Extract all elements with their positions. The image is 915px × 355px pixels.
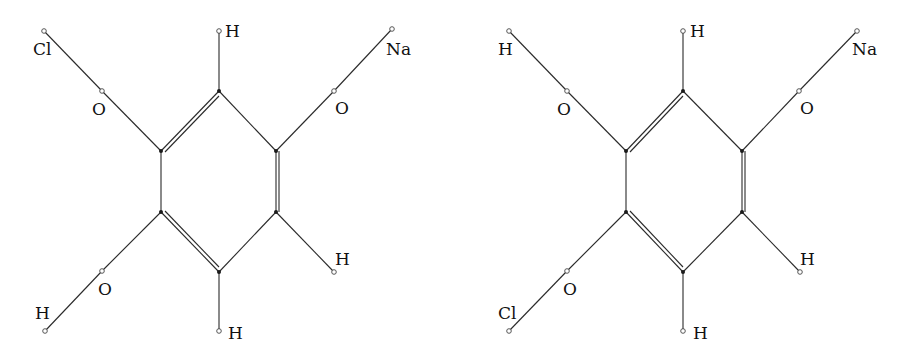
carbon-atom <box>740 210 744 214</box>
benzene-ring <box>161 91 279 272</box>
carbon-atom <box>159 210 163 214</box>
left-molecule: H Cl O Na O O H H H <box>33 21 411 343</box>
atom-label-na: Na <box>386 39 411 59</box>
atom-label-h: H <box>335 249 350 269</box>
molecule-diagram: H Cl O Na O O H H H <box>0 0 915 355</box>
carbon-atom <box>217 270 221 274</box>
carbon-atom <box>159 149 163 153</box>
atom-label-o: O <box>98 279 112 299</box>
atom-label-h: H <box>225 21 240 41</box>
atom-label-h: H <box>800 249 815 269</box>
atom-label-h: H <box>228 323 243 343</box>
atom-label-cl: Cl <box>33 39 51 59</box>
atom-label-cl: Cl <box>498 303 516 323</box>
carbon-atom <box>217 89 221 93</box>
carbon-atom <box>740 149 744 153</box>
carbon-atom <box>624 210 628 214</box>
atom-label-o: O <box>557 99 571 119</box>
atom-label-h: H <box>690 21 705 41</box>
right-molecule: H H O Na O O Cl H H <box>498 21 877 343</box>
atom-label-o: O <box>335 98 349 118</box>
atom-label-h: H <box>693 323 708 343</box>
benzene-ring <box>626 91 745 272</box>
atom-label-h: H <box>498 39 513 59</box>
atom-label-na: Na <box>852 39 877 59</box>
atom-label-h: H <box>35 303 50 323</box>
atom-label-o: O <box>800 98 814 118</box>
carbon-atom <box>274 149 278 153</box>
atom-label-o: O <box>92 99 106 119</box>
carbon-atom <box>681 270 685 274</box>
carbon-atom <box>681 89 685 93</box>
carbon-atom <box>274 210 278 214</box>
atom-label-o: O <box>563 279 577 299</box>
carbon-atom <box>624 149 628 153</box>
